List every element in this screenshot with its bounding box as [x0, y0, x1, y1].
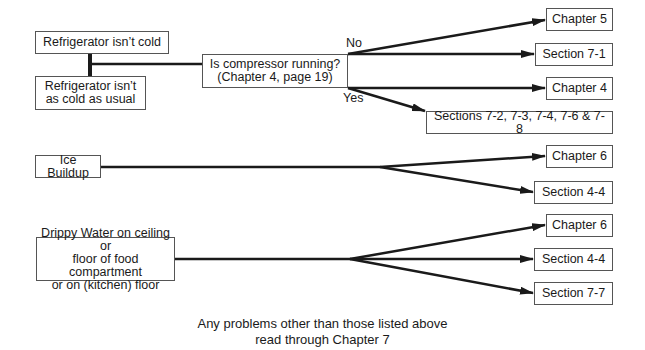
arrow-ice-section4-4	[380, 167, 533, 192]
arrow-drip-section7-7	[350, 259, 533, 293]
arrow-ice-chapter6	[380, 156, 545, 167]
arrow-no-chapter5	[348, 20, 545, 54]
symptom-ice-buildup: Ice Buildup	[35, 155, 101, 178]
symptom-drippy-water: Drippy Water on ceiling or floor of food…	[36, 237, 175, 281]
target-chapter-5: Chapter 5	[546, 8, 613, 31]
target-drip-section-7-7: Section 7-7	[534, 282, 613, 305]
label-yes: Yes	[343, 91, 363, 105]
question-compressor-running: Is compressor running? (Chapter 4, page …	[202, 54, 348, 88]
target-chapter-4: Chapter 4	[546, 77, 613, 100]
label-no: No	[346, 36, 362, 50]
target-drip-section-4-4: Section 4-4	[534, 248, 613, 271]
target-drip-chapter-6: Chapter 6	[546, 214, 613, 237]
symptom-not-cold: Refrigerator isn’t cold	[35, 31, 169, 54]
target-sections-7-2-to-7-8: Sections 7-2, 7-3, 7-4, 7-6 & 7-8	[426, 111, 613, 134]
arrow-drip-chapter6	[350, 225, 545, 259]
footer-note: Any problems other than those listed abo…	[0, 316, 645, 348]
target-ice-section-4-4: Section 4-4	[534, 181, 613, 204]
symptom-not-as-cold: Refrigerator isn’t as cold as usual	[35, 76, 146, 110]
target-section-7-1: Section 7-1	[535, 43, 613, 66]
target-ice-chapter-6: Chapter 6	[546, 145, 613, 168]
